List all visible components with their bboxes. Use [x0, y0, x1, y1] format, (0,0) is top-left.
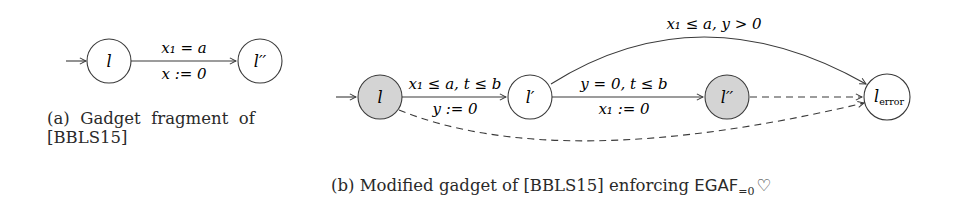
caption-b-text: (b) Modified gadget of [BBLS15] enforcin… [331, 176, 694, 195]
node-a-l-label: l [106, 52, 111, 71]
edge-l-lp-guard: x₁ ≤ a, t ≤ b [409, 75, 502, 93]
figure-b: x₁ ≤ a, y > 0 x₁ ≤ a, t ≤ b y := 0 y = 0… [336, 15, 910, 141]
edge-a-guard: x₁ = a [161, 39, 207, 57]
node-b-lerr-sub: error [879, 96, 904, 107]
edge-lp-lerr-guard: x₁ ≤ a, y > 0 [666, 15, 762, 33]
caption-a-line1: (a) Gadget fragment of [47, 109, 297, 128]
edge-a-reset: x := 0 [161, 65, 207, 83]
caption-b-formula: EGAF [694, 176, 738, 195]
caption-b-sub: =0 [738, 185, 754, 198]
node-b-lp-label: l′ [526, 88, 535, 107]
node-b-l-label: l [377, 88, 382, 107]
edge-lp-lpp-reset: x₁ := 0 [598, 100, 650, 118]
node-a-l2-label: l′′ [254, 52, 267, 71]
diagram-canvas: l x₁ = a x := 0 l′′ x₁ ≤ a, y > 0 x₁ ≤ a… [0, 0, 972, 202]
figure-a: l x₁ = a x := 0 l′′ [66, 39, 282, 83]
edge-l-lp-reset: y := 0 [431, 100, 478, 118]
caption-b: (b) Modified gadget of [BBLS15] enforcin… [331, 176, 771, 198]
caption-a: (a) Gadget fragment of [BBLS15] [47, 109, 297, 147]
heart-icon: ♡ [757, 176, 772, 195]
edge-lp-lpp-guard: y = 0, t ≤ b [579, 75, 667, 93]
caption-a-line2: [BBLS15] [47, 128, 297, 147]
node-b-lpp-label: l′′ [721, 88, 734, 107]
